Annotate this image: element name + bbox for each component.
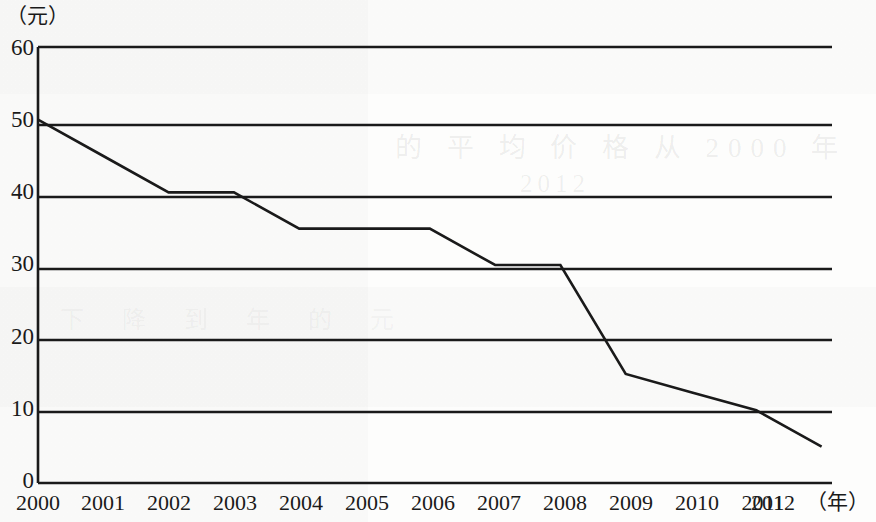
data-series-line [38, 120, 822, 447]
x-tick-label-2003: 2003 [203, 492, 267, 514]
chart-plot-area [0, 0, 876, 522]
x-tick-label-2012: 2012 [741, 492, 805, 514]
x-tick-label-2002: 2002 [137, 492, 201, 514]
x-tick-label-2004: 2004 [269, 492, 333, 514]
x-tick-label-2009: 2009 [599, 492, 663, 514]
x-tick-label-2005: 2005 [335, 492, 399, 514]
chart-page: 的 平 均 价 格 从 2000 年 2012 下 降 到 年 的 元 （元） … [0, 0, 876, 522]
x-tick-label-2010: 2010 [665, 492, 729, 514]
x-tick-label-2001: 2001 [71, 492, 135, 514]
x-tick-label-2008: 2008 [533, 492, 597, 514]
x-axis-unit-label: （年） [806, 492, 869, 513]
x-tick-label-2000: 2000 [6, 492, 70, 514]
x-tick-label-2007: 2007 [467, 492, 531, 514]
x-tick-label-2006: 2006 [401, 492, 465, 514]
